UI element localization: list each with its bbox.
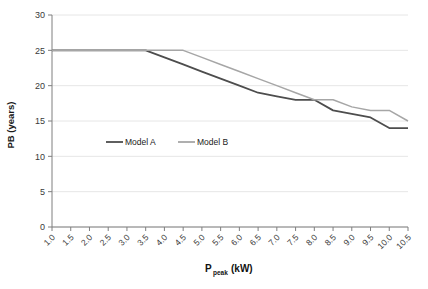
payback-period-line-chart: 051015202530 1.01.52.02.53.03.54.04.55.0…	[0, 0, 428, 289]
y-tick-label: 25	[35, 46, 45, 56]
y-tick-label: 5	[40, 187, 45, 197]
legend-label-model-a: Model A	[125, 137, 156, 147]
y-tick-label: 20	[35, 81, 45, 91]
legend-label-model-b: Model B	[197, 137, 229, 147]
y-tick-label: 10	[35, 152, 45, 162]
y-axis-title: PB (years)	[5, 102, 16, 149]
x-axis-title-subscript: peak	[213, 269, 228, 277]
x-axis-title-units: (kW)	[231, 263, 253, 274]
chart-figure: 051015202530 1.01.52.02.53.03.54.04.55.0…	[0, 0, 428, 289]
x-axis-title-main: P	[205, 263, 212, 274]
y-tick-label: 0	[40, 222, 45, 232]
y-tick-label: 15	[35, 116, 45, 126]
y-tick-label: 30	[35, 10, 45, 20]
